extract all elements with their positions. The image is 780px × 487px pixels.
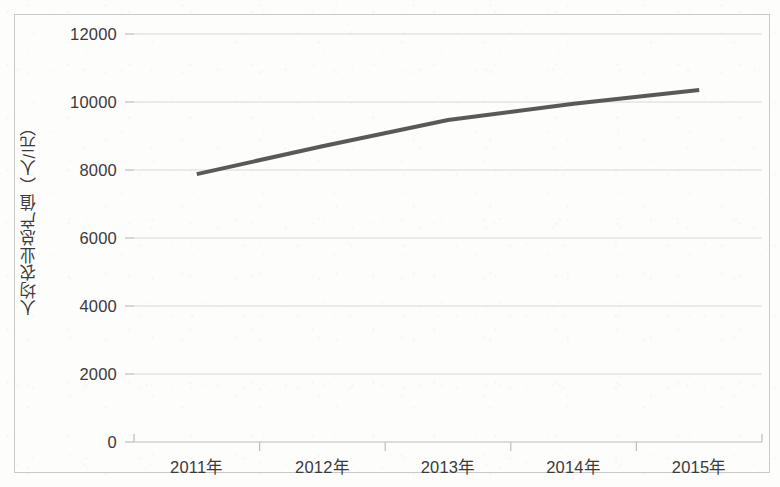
chart-page: 人均农业总产值（人/元） 020004000600080001000012000… (0, 0, 780, 487)
gridlines (134, 34, 762, 374)
axis-lines (134, 434, 762, 442)
axis-tick-marks (125, 34, 636, 451)
data-series-group (197, 90, 699, 174)
series-line-0 (197, 90, 699, 174)
plot-area (0, 0, 780, 487)
